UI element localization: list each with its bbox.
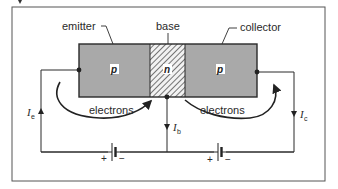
battery-2-minus: − bbox=[225, 154, 231, 165]
emitter-current-arrow-icon bbox=[38, 108, 44, 114]
base-label: base bbox=[156, 20, 180, 32]
emitter-label: emitter bbox=[62, 20, 96, 32]
top-arrow-mark bbox=[18, 0, 22, 4]
svg-text:e: e bbox=[31, 113, 35, 120]
emitter-terminal-dot bbox=[77, 68, 82, 73]
collector-current-label: I c bbox=[299, 108, 308, 122]
svg-text:b: b bbox=[177, 128, 181, 135]
right-electrons-label: electrons bbox=[200, 104, 245, 116]
collector-type-letter: p bbox=[216, 64, 223, 75]
battery-2-plus: + bbox=[207, 154, 213, 165]
collector-leader-line bbox=[222, 28, 237, 44]
collector-terminal-dot bbox=[255, 70, 260, 75]
collector-label: collector bbox=[240, 21, 281, 33]
transistor-diagram: p n p emitter base collector I e I b I c… bbox=[0, 0, 338, 189]
battery-1-plus: + bbox=[101, 153, 107, 164]
emitter-leader-line bbox=[101, 26, 113, 44]
collector-current-arrow-icon bbox=[291, 111, 297, 117]
base-current-label: I b bbox=[172, 121, 181, 135]
svg-text:c: c bbox=[304, 115, 308, 122]
base-current-arrow-icon bbox=[164, 124, 170, 130]
battery-1-minus: − bbox=[119, 153, 125, 164]
emitter-current-label: I e bbox=[26, 106, 35, 120]
base-terminal-dot bbox=[165, 95, 170, 100]
base-type-letter: n bbox=[164, 64, 170, 75]
left-electrons-label: electrons bbox=[89, 104, 134, 116]
emitter-type-letter: p bbox=[110, 64, 117, 75]
